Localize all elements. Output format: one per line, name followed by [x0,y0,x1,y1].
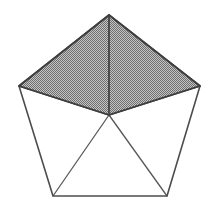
figure-canvas [0,0,212,208]
pentagon-diagram [0,0,212,208]
